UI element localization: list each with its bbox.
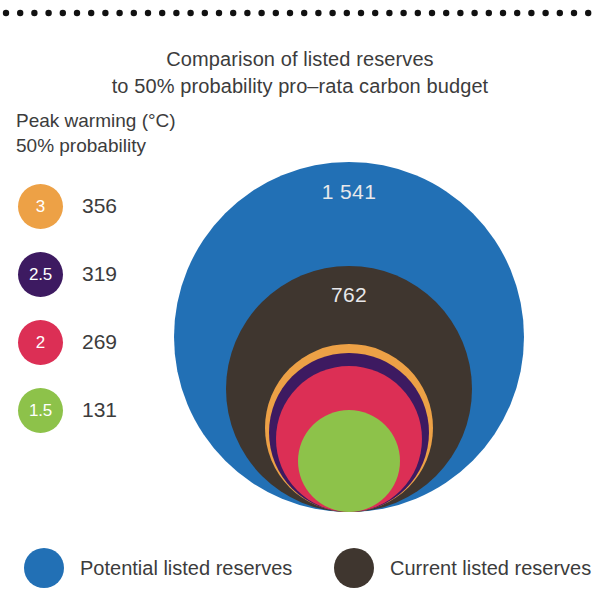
legend-label-current: Current listed reserves bbox=[390, 554, 591, 582]
bubble-budget-15c[interactable] bbox=[298, 410, 400, 512]
legend-swatch-potential bbox=[24, 548, 64, 588]
legend-label-potential: Potential listed reserves bbox=[80, 554, 292, 582]
reserves-legend: Potential listed reserves Current listed… bbox=[24, 540, 598, 594]
bubble-label-current: 762 bbox=[269, 282, 429, 308]
bubble-label-potential: 1 541 bbox=[269, 179, 429, 205]
bubble-chart: 1 541 762 bbox=[0, 0, 598, 540]
legend-swatch-current bbox=[334, 548, 374, 588]
